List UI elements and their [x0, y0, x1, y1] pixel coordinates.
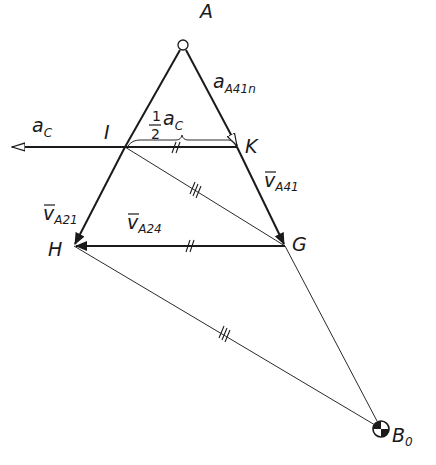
label-a-c: aC [32, 114, 53, 140]
half-ac-main: a [163, 107, 175, 129]
label-K: K [245, 135, 259, 157]
svg-text:aC: aC [163, 107, 184, 133]
line-H-B0 [74, 246, 375, 425]
label-B0-main: B [392, 424, 405, 446]
label-H: H [48, 238, 62, 260]
a-A41n-main: a [213, 70, 225, 92]
half-ac-brace [128, 135, 236, 146]
label-a-c-sub: C [44, 126, 53, 140]
v-A24-main: v [127, 211, 139, 233]
v-A21-main: v [43, 202, 55, 224]
label-a-A41n: aA41n [213, 70, 256, 96]
half-ac-numerator: 1 [152, 108, 161, 124]
ground-B0-icon [373, 421, 389, 437]
v-A24-sub: A24 [137, 222, 161, 236]
svg-text:vA41: vA41 [264, 169, 299, 194]
svg-text:vA21: vA21 [43, 202, 78, 227]
v-A21-arrow [75, 147, 125, 244]
label-A: A [198, 0, 213, 22]
point-A-pivot [178, 40, 188, 50]
v-A41-arrow [237, 147, 284, 244]
label-v-A24: vA24 [127, 211, 162, 236]
half-ac-denominator: 2 [151, 126, 160, 142]
label-a-c-main: a [32, 114, 44, 136]
label-B0-sub: 0 [405, 435, 413, 449]
label-half-ac: 1 2 aC [149, 107, 184, 142]
line-G-B0 [285, 246, 377, 421]
v-A21-sub: A21 [53, 213, 77, 227]
label-B0: B0 [392, 424, 413, 449]
label-G: G [292, 233, 307, 255]
a-A41n-sub: A41n [224, 82, 256, 96]
tick-HB0 [219, 326, 230, 342]
v-A41-main: v [264, 169, 276, 191]
half-ac-sub: C [175, 119, 184, 133]
diagram-canvas: A I K G H B0 aC 1 2 aC aA41n vA41 vA21 [0, 0, 436, 465]
v-A41-sub: A41 [274, 180, 298, 194]
svg-text:vA24: vA24 [127, 211, 162, 236]
label-v-A41: vA41 [264, 169, 299, 194]
tick-IG [190, 182, 201, 198]
a-A41n-arrow [186, 50, 237, 146]
label-v-A21: vA21 [43, 202, 78, 227]
label-I: I [104, 121, 110, 143]
